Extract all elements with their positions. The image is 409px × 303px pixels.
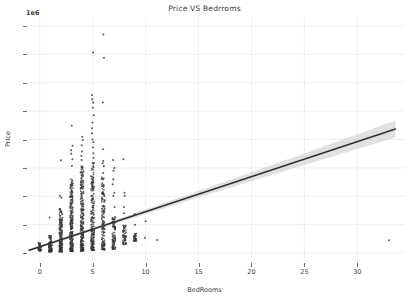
x-tick-mark [304,263,305,267]
x-tick-label: 20 [241,268,261,276]
x-tick-mark [199,263,200,267]
x-tick-label: 0 [30,268,50,276]
x-tick-label: 15 [189,268,209,276]
x-tick-label: 25 [294,268,314,276]
plot-area [27,16,405,263]
y-axis-label: Price [4,119,12,159]
regression-line [29,129,395,250]
chart-title: Price VS Bedrroms [0,4,409,13]
x-tick-mark [93,263,94,267]
chart-figure: Price VS Bedrroms 1e6 Price BedRooms 012… [0,0,409,303]
x-tick-label: 10 [136,268,156,276]
x-tick-mark [357,263,358,267]
x-tick-mark [40,263,41,267]
scatter-plot-canvas [27,16,405,263]
x-tick-mark [146,263,147,267]
x-tick-mark [251,263,252,267]
x-axis-label: BedRooms [0,286,409,294]
x-tick-label: 30 [347,268,367,276]
x-tick-label: 5 [83,268,103,276]
